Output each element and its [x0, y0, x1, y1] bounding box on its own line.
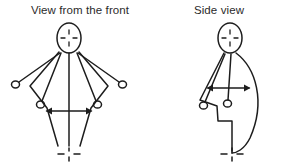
base-crosshair-icon — [58, 148, 80, 161]
panel-side-view-title: Side view — [160, 3, 284, 17]
diagram-canvas: View from the front — [0, 0, 284, 164]
body-outline-back — [232, 53, 258, 153]
hand-right-inner-marker — [94, 101, 102, 108]
body-outline-right — [79, 52, 108, 146]
panel-side-view: Side view — [160, 0, 284, 164]
body-outline-left — [30, 52, 59, 146]
head-crosshair-icon — [222, 30, 238, 46]
hand-left-inner-marker — [37, 101, 45, 108]
front-view-figure — [0, 16, 160, 164]
panel-front-view-title: View from the front — [0, 3, 160, 17]
hand-right-outer-marker — [119, 81, 127, 88]
side-view-figure — [160, 16, 284, 164]
head-crosshair-icon — [61, 30, 77, 46]
hand-left-outer-marker — [12, 81, 20, 88]
hand-outer-marker — [200, 102, 208, 109]
body-outline-front — [200, 53, 232, 153]
arm-right-outer — [78, 53, 119, 82]
hand-inner-marker — [224, 100, 232, 107]
arm-inner — [228, 54, 231, 100]
arm-outer — [205, 54, 225, 102]
arm-left-outer — [19, 53, 60, 82]
panel-front-view: View from the front — [0, 0, 160, 164]
